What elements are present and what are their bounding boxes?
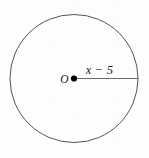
radius-length-label: x − 5 xyxy=(85,63,113,77)
center-label-o: O xyxy=(60,73,69,85)
center-point-dot xyxy=(71,75,77,81)
figure-canvas: O x − 5 xyxy=(0,0,149,158)
circle-diagram: O x − 5 xyxy=(0,0,149,158)
